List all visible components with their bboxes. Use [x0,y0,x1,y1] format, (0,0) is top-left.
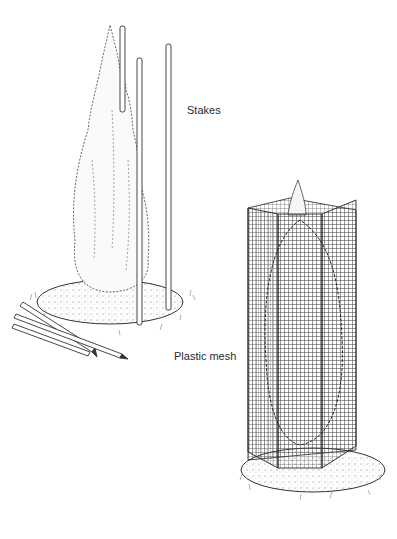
illustration-canvas [0,0,397,539]
conifer-with-stakes-illustration [12,25,195,359]
plastic-mesh-label: Plastic mesh [174,350,236,362]
conifer-tip [288,180,306,215]
stakes-label: Stakes [187,104,221,116]
mesh-cage-illustration [240,180,385,500]
